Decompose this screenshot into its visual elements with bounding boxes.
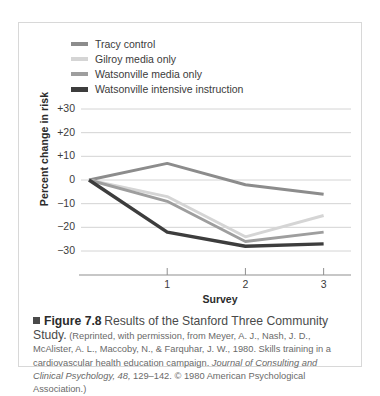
figure-panel: Tracy controlGilroy media onlyWatsonvill… <box>18 22 362 367</box>
y-tick-label: −30 <box>41 244 75 256</box>
caption-figure-number: Figure 7.8 <box>44 314 102 328</box>
y-tick-label: 0 <box>41 173 75 185</box>
y-tick-label: +30 <box>41 102 75 114</box>
figure-caption: Figure 7.8 Results of the Stanford Three… <box>33 315 349 396</box>
y-tick-label: −20 <box>41 220 75 232</box>
x-tick-label: 3 <box>314 278 334 290</box>
chart-plot-area: Tracy controlGilroy media onlyWatsonvill… <box>19 23 363 313</box>
x-tick-label: 2 <box>235 278 255 290</box>
x-tick-label: 1 <box>157 278 177 290</box>
caption-marker-icon <box>33 317 40 324</box>
y-tick-label: +10 <box>41 149 75 161</box>
y-tick-label: −10 <box>41 197 75 209</box>
chart-svg <box>19 23 363 313</box>
y-tick-label: +20 <box>41 126 75 138</box>
